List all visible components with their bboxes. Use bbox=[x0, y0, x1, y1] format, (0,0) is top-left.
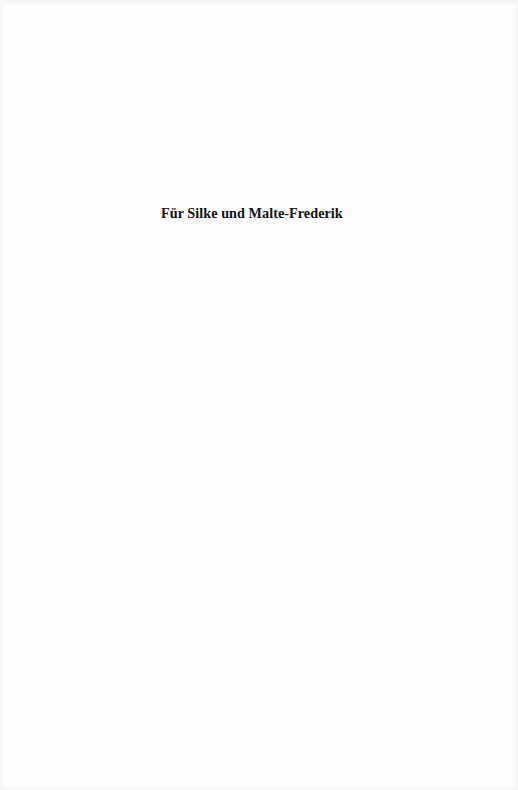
dedication-text: Für Silke und Malte-Frederik bbox=[161, 204, 343, 222]
scan-edge-left bbox=[0, 0, 5, 790]
scan-edge-right bbox=[512, 0, 518, 790]
scan-edge-bottom bbox=[0, 785, 518, 790]
scan-edge-top bbox=[0, 0, 518, 6]
document-page: Für Silke und Malte-Frederik bbox=[0, 0, 518, 790]
